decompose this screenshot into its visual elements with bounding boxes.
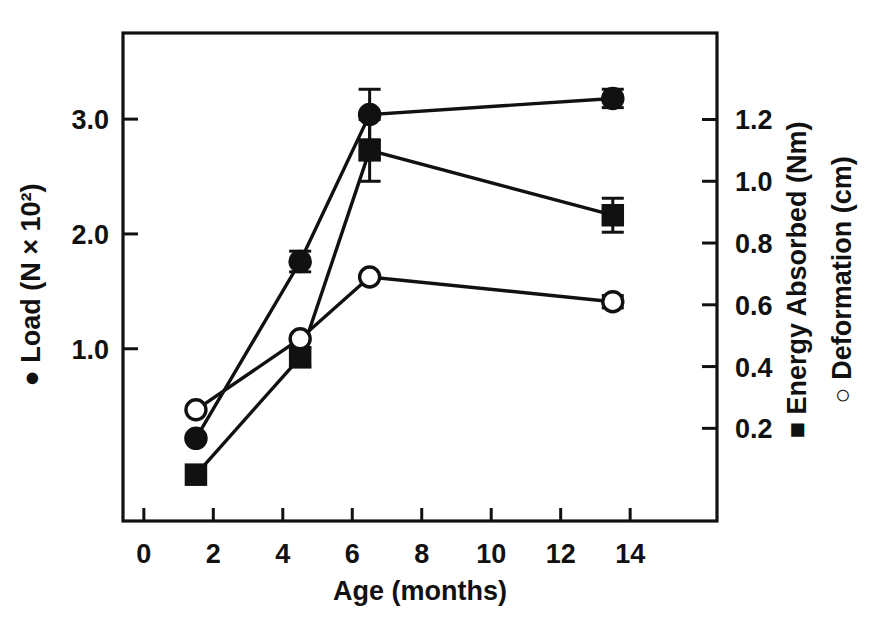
plot-frame (123, 33, 717, 521)
marker-filled-square (359, 140, 380, 161)
marker-open-circle (360, 267, 380, 287)
marker-filled-square (602, 205, 623, 226)
x-tick-label: 12 (546, 539, 576, 569)
x-axis-tick-labels: 02468101214 (136, 539, 645, 569)
x-tick-label: 4 (275, 539, 290, 569)
right-y-axis-tick-labels: 0.20.40.60.81.01.2 (735, 105, 773, 444)
x-tick-label: 0 (136, 539, 151, 569)
x-axis-ticks (144, 508, 630, 521)
right-y-axis-title-deformation: ○ Deformation (cm) (827, 156, 857, 403)
series-line (196, 277, 613, 410)
series-energy-absorbed (185, 119, 623, 485)
marker-filled-circle (185, 427, 207, 449)
left-y-tick-label: 2.0 (71, 220, 109, 250)
series-line (196, 98, 613, 438)
right-y-tick-label: 0.2 (735, 414, 773, 444)
x-axis-title: Age (months) (333, 576, 507, 606)
series-load (185, 87, 624, 449)
right-y-tick-label: 0.8 (735, 229, 773, 259)
right-y-tick-label: 1.0 (735, 167, 773, 197)
line-chart-plot: 02468101214 1.02.03.0 0.20.40.60.81.01.2… (0, 0, 875, 625)
marker-open-circle (290, 329, 310, 349)
right-y-tick-label: 0.6 (735, 291, 773, 321)
series-line (196, 150, 613, 474)
left-y-axis-ticks (123, 119, 138, 349)
x-tick-label: 14 (615, 539, 645, 569)
right-y-axis-ticks (702, 119, 717, 428)
left-y-tick-label: 3.0 (71, 105, 109, 135)
series-layer (185, 87, 624, 485)
left-y-axis-tick-labels: 1.02.03.0 (71, 105, 109, 365)
right-y-tick-label: 1.2 (735, 105, 773, 135)
marker-open-circle (186, 400, 206, 420)
right-y-axis-title-energy: ■ Energy Absorbed (Nm) (782, 122, 812, 439)
marker-open-circle (603, 292, 623, 312)
marker-filled-square (185, 464, 206, 485)
x-tick-label: 2 (206, 539, 221, 569)
chart-figure: 02468101214 1.02.03.0 0.20.40.60.81.01.2… (0, 0, 875, 625)
x-tick-label: 10 (476, 539, 506, 569)
right-y-tick-label: 0.4 (735, 353, 773, 383)
left-y-axis-title: ● Load (N × 10²) (16, 183, 46, 386)
left-y-tick-label: 1.0 (71, 335, 109, 365)
marker-filled-circle (602, 87, 624, 109)
marker-filled-circle (289, 250, 311, 272)
x-tick-label: 6 (345, 539, 360, 569)
x-tick-label: 8 (414, 539, 429, 569)
